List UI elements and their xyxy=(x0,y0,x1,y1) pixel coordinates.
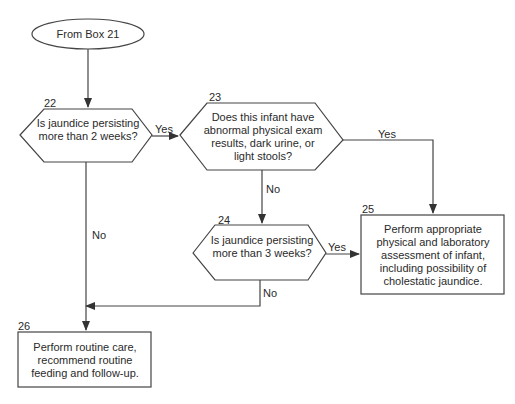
node-24-number: 24 xyxy=(218,214,230,226)
node-25-number: 25 xyxy=(362,203,374,215)
node-22-text: Is jaundice persisting more than 2 weeks… xyxy=(36,117,140,143)
edge-23-25-yes-label: Yes xyxy=(378,128,396,140)
edge-24-26-no xyxy=(86,280,260,306)
node-25-text: Perform appropriate physical and laborat… xyxy=(368,223,498,288)
start-label: From Box 21 xyxy=(40,28,136,41)
edge-24-26-no-label: No xyxy=(263,287,277,299)
node-23-number: 23 xyxy=(209,91,221,103)
node-26-number: 26 xyxy=(18,320,30,332)
edge-24-25-yes-label: Yes xyxy=(328,241,346,253)
edge-23-25-yes xyxy=(343,140,433,213)
node-24-text: Is jaundice persisting more than 3 weeks… xyxy=(208,234,316,260)
node-26-text: Perform routine care, recommend routine … xyxy=(26,341,144,380)
edge-22-26-no-label: No xyxy=(92,229,106,241)
node-22-number: 22 xyxy=(44,97,56,109)
node-23-text: Does this infant have abnormal physical … xyxy=(202,111,324,163)
edge-22-23-yes-label: Yes xyxy=(155,123,173,135)
edge-23-24-no-label: No xyxy=(266,183,280,195)
